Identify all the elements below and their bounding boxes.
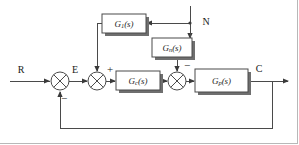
- wire-sum3-to-plant: [186, 78, 195, 83]
- g1-label-arg: (s): [124, 19, 134, 29]
- controller-block[interactable]: Gc(s): [116, 71, 163, 93]
- feedforward-compensator-block[interactable]: G1(s): [102, 14, 149, 36]
- feedforward-summing-junction[interactable]: [88, 72, 106, 90]
- output-signal-label: C: [256, 63, 263, 74]
- sum2-positive-sign: +: [107, 63, 113, 75]
- svg-text:Gp(s): Gp(s): [212, 76, 231, 86]
- control-block-diagram: G1(s) Gn(s) Gc(s) Gp(s): [0, 0, 299, 145]
- wire-plant-to-output: [248, 78, 289, 83]
- disturbance-input-label: N: [202, 16, 209, 27]
- disturbance-summing-junction[interactable]: [168, 72, 186, 90]
- disturbance-transfer-block[interactable]: Gn(s): [152, 38, 195, 60]
- wire-reference-to-sum1: [10, 78, 50, 83]
- gc-label-arg: (s): [138, 76, 148, 86]
- gn-label-arg: (s): [172, 43, 182, 53]
- wire-sum2-to-controller: [106, 78, 116, 83]
- error-summing-junction[interactable]: [51, 72, 69, 90]
- plant-block[interactable]: Gp(s): [195, 69, 251, 95]
- wire-feedforward-to-sum2: [94, 23, 102, 72]
- sum1-negative-sign: −: [61, 92, 67, 104]
- diagram-canvas: G1(s) Gn(s) Gc(s) Gp(s): [0, 0, 299, 145]
- wire-disturbance-to-feedforward: [146, 20, 192, 25]
- wire-sum1-to-sum2: [69, 78, 88, 83]
- svg-text:G1(s): G1(s): [114, 19, 133, 29]
- svg-text:Gc(s): Gc(s): [129, 76, 148, 86]
- sum3-negative-sign: −: [184, 59, 190, 71]
- svg-text:Gn(s): Gn(s): [162, 43, 181, 53]
- error-signal-label: E: [72, 64, 78, 75]
- reference-input-label: R: [18, 64, 25, 75]
- gp-label-arg: (s): [222, 76, 232, 86]
